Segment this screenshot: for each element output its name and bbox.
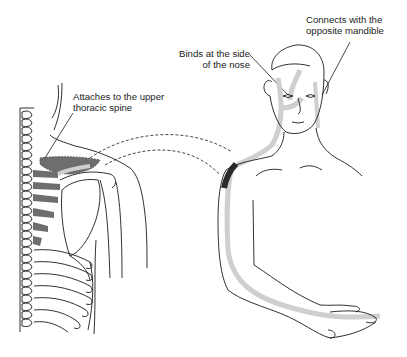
- label-mandible: Connects with the opposite mandible: [306, 14, 384, 36]
- label-spine: Attaches to the upper thoracic spine: [73, 91, 164, 113]
- label-nose: Binds at the side of the nose: [172, 48, 250, 70]
- front-figure: [218, 45, 380, 338]
- anatomy-diagram: Connects with the opposite mandible Bind…: [0, 0, 407, 357]
- back-skeleton-view: [20, 83, 147, 334]
- connector-arcs: [90, 135, 232, 175]
